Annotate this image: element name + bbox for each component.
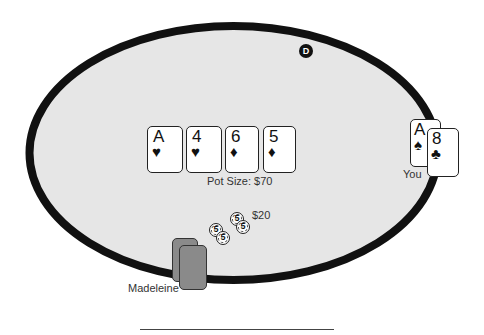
community-card: 6 ♦ — [225, 126, 259, 173]
bet-amount-label: $20 — [252, 209, 270, 221]
spade-icon: ♠ — [414, 137, 422, 152]
community-card: 5 ♦ — [263, 126, 296, 173]
pot-size-label: Pot Size: $70 — [207, 175, 272, 187]
club-icon: ♣ — [431, 146, 441, 161]
chip-icon: 5 — [216, 231, 230, 245]
divider — [140, 329, 334, 330]
chip-icon: 5 — [236, 220, 250, 234]
community-card: 4 ♥ — [186, 126, 222, 173]
player-name-madeleine: Madeleine — [128, 282, 179, 294]
hole-card: 8 ♣ — [427, 128, 459, 177]
heart-icon: ♥ — [191, 144, 200, 159]
community-card: A ♥ — [147, 126, 183, 173]
diamond-icon: ♦ — [268, 144, 276, 159]
dealer-button: D — [299, 44, 313, 58]
face-down-card — [179, 245, 207, 290]
heart-icon: ♥ — [152, 144, 161, 159]
diamond-icon: ♦ — [230, 144, 238, 159]
player-name-you: You — [403, 168, 422, 180]
